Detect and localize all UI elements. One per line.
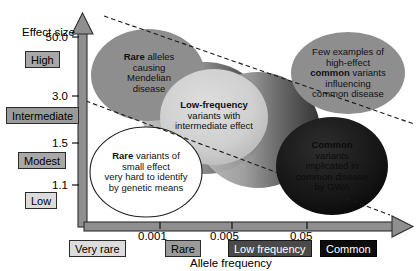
y-tick-1-1: 1.1 xyxy=(10,179,68,191)
x-axis-title: Allele frequency xyxy=(190,257,272,270)
y-tick-50: 50.0 xyxy=(10,31,68,43)
y-category-high[interactable]: High xyxy=(25,51,60,68)
bubble-caption-low-frequency: Low-frequencyvariants withintermediate e… xyxy=(161,100,267,132)
x-category-rare[interactable]: Rare xyxy=(165,240,201,257)
bubble-caption-rare-small-effect: Rare variants ofsmall effectvery hard to… xyxy=(93,151,199,193)
x-category-low-frequency[interactable]: Low frequency xyxy=(228,240,312,257)
x-category-very-rare[interactable]: Very rare xyxy=(69,240,126,257)
bubble-caption-high-effect-common: Few examples ofhigh-effectcommon variant… xyxy=(296,47,400,100)
bubble-caption-common-gwa: Commonvariantsimplicated incommon diseas… xyxy=(284,140,380,193)
allele-frequency-effect-size-figure: Effect size 50.0 3.0 1.5 1.1 High Interm… xyxy=(0,0,418,271)
bubble-caption-rare-mendelian: Rare allelescausingMendeliandisease xyxy=(106,52,192,94)
x-category-common[interactable]: Common xyxy=(320,240,377,257)
x-tick-0-001: 0.001 xyxy=(138,230,167,242)
y-category-intermediate[interactable]: Intermediate xyxy=(6,107,79,124)
y-tick-1-5: 1.5 xyxy=(10,137,68,149)
y-category-low[interactable]: Low xyxy=(25,192,57,209)
y-tick-3: 3.0 xyxy=(10,90,68,102)
y-category-modest[interactable]: Modest xyxy=(18,152,66,169)
